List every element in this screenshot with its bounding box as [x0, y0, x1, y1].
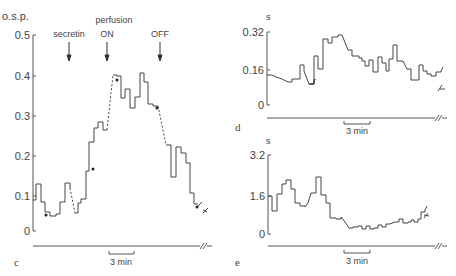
panel-d-label: d — [235, 121, 241, 133]
panel-c-ylabel: o.s.p. — [2, 10, 29, 22]
panel-c-ytick: 0 — [24, 225, 30, 237]
secretin-arrow-icon — [67, 55, 71, 61]
panel-d-trace — [267, 65, 315, 84]
panel-d-ytick: 0.16 — [243, 64, 264, 76]
panel-d-scale-bar — [344, 121, 370, 124]
panel-e-label: e — [235, 256, 240, 268]
panel-e-ytick: 1.6 — [250, 190, 265, 202]
panel-c-label: c — [14, 256, 19, 268]
perfusion-off-label: OFF — [151, 29, 169, 39]
panel-d: s 0.32 0.16 0 3 min d — [235, 12, 447, 136]
panel-c-ytick: 0.5 — [15, 29, 30, 41]
panel-e: s 3.2 1.6 0 3 min e — [235, 136, 447, 268]
panel-e-ylabel: s — [266, 136, 271, 146]
panel-d-ytick: 0 — [258, 99, 264, 111]
on-arrow-icon — [105, 55, 109, 61]
panel-c: o.s.p. 0.5 0.4 0.3 0.2 0.1 0 perfusion s… — [2, 10, 212, 268]
panel-c-ytick: 0.4 — [15, 70, 30, 82]
panel-d-scale-label: 3 min — [346, 126, 368, 136]
panel-c-ytick: 0.1 — [15, 190, 30, 202]
perfusion-on-label: ON — [100, 29, 114, 39]
panel-e-ytick: 0 — [259, 228, 265, 240]
panel-c-trace — [33, 183, 70, 216]
panel-e-ytick: 3.2 — [250, 149, 265, 161]
secretin-label: secretin — [53, 29, 85, 39]
panel-c-scale-bar — [109, 251, 134, 254]
panel-c-scale-label: 3 min — [110, 257, 132, 267]
panel-e-scale-label: 3 min — [346, 256, 368, 266]
off-arrow-icon — [158, 55, 162, 61]
panel-d-ylabel: s — [266, 12, 271, 22]
panel-c-ytick: 0.2 — [15, 150, 30, 162]
panel-e-trace — [268, 177, 427, 229]
perfusion-label: perfusion — [95, 15, 132, 25]
panel-d-ytick: 0.32 — [243, 26, 264, 38]
panel-e-scale-bar — [344, 250, 370, 253]
panel-c-ytick: 0.3 — [15, 110, 30, 122]
figure: o.s.p. 0.5 0.4 0.3 0.2 0.1 0 perfusion s… — [0, 0, 456, 276]
